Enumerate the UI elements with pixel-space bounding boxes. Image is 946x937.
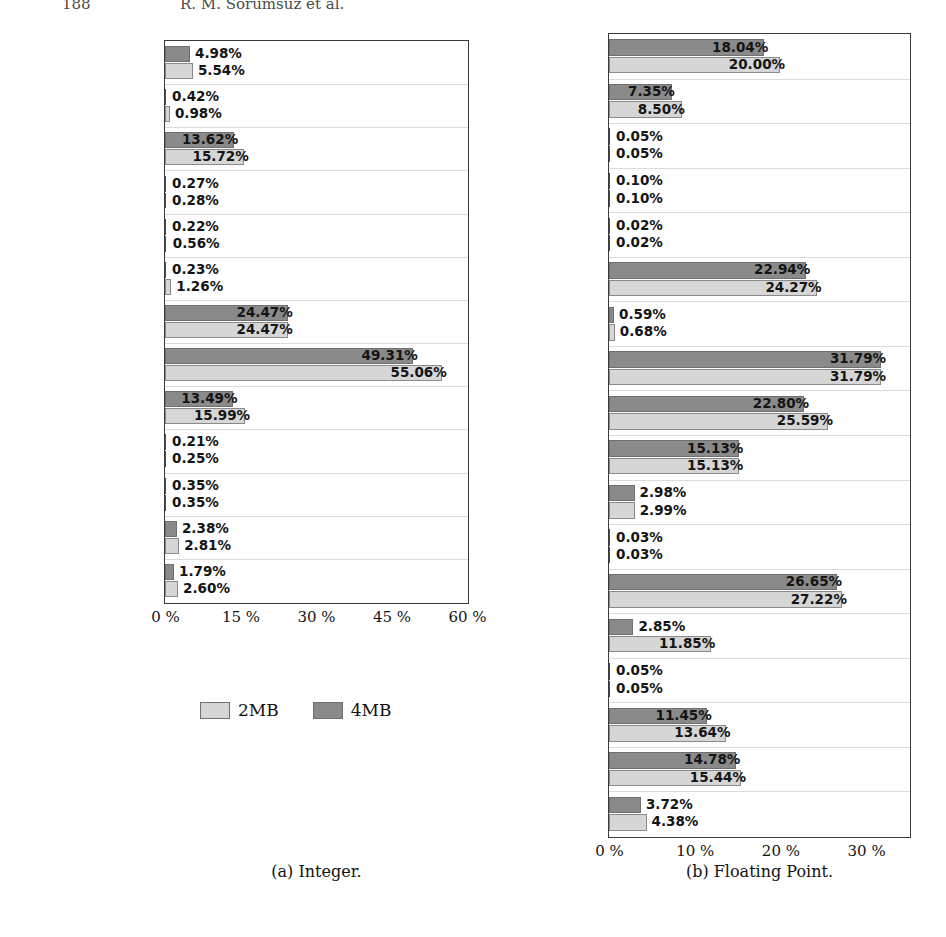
gridline (609, 791, 910, 792)
caption-integer: (a) Integer. (164, 862, 469, 881)
gridline (609, 524, 910, 525)
bar (609, 797, 641, 813)
gridline (165, 386, 468, 387)
x-tick-label: 0 % (580, 844, 640, 859)
bar-value-label: 0.05% (616, 682, 663, 696)
bar-value-label: 0.03% (616, 531, 663, 545)
bar (609, 218, 611, 234)
gridline (609, 480, 910, 481)
gridline (165, 257, 468, 258)
bar-value-label: 2.98% (640, 486, 687, 500)
legend-swatch-2mb (200, 702, 230, 719)
bar-value-label: 26.65% (786, 575, 842, 589)
bar-value-label: 0.28% (172, 194, 219, 208)
bar (165, 219, 167, 235)
bar (165, 581, 178, 597)
bar-value-label: 13.64% (674, 726, 730, 740)
x-tick-label: 15 % (211, 610, 271, 625)
gridline (609, 702, 910, 703)
x-tick-label: 0 % (136, 610, 196, 625)
bar-value-label: 4.38% (652, 815, 699, 829)
bar (165, 451, 167, 467)
bar-value-label: 15.72% (193, 150, 249, 164)
bar (165, 262, 167, 278)
bar-value-label: 0.10% (616, 192, 663, 206)
gridline (609, 747, 910, 748)
bar (165, 89, 167, 105)
bar (165, 564, 174, 580)
bar (609, 146, 611, 162)
legend-swatch-4mb (313, 702, 343, 719)
gridline (165, 84, 468, 85)
gridline (165, 170, 468, 171)
gridline (609, 212, 910, 213)
running-title: R. M. Sorumsuz et al. (180, 0, 344, 13)
bar-value-label: 22.80% (753, 397, 809, 411)
legend-label-4mb: 4MB (351, 700, 392, 720)
bar-value-label: 2.99% (640, 504, 687, 518)
bar-value-label: 3.72% (646, 798, 693, 812)
bar (609, 324, 615, 340)
gridline (609, 123, 910, 124)
bar-value-label: 11.45% (656, 709, 712, 723)
caption-floating-point: (b) Floating Point. (608, 862, 911, 881)
bar (609, 529, 611, 545)
bar (165, 538, 179, 554)
bar (609, 307, 614, 323)
gridline (609, 301, 910, 302)
bar-value-label: 0.05% (616, 147, 663, 161)
bar-value-label: 14.78% (684, 753, 740, 767)
bar-value-label: 2.85% (638, 620, 685, 634)
x-tick-label: 10 % (665, 844, 725, 859)
bar-value-label: 0.05% (616, 130, 663, 144)
page-number: 188 (62, 0, 91, 13)
bar-value-label: 1.26% (176, 280, 223, 294)
bar-value-label: 0.10% (616, 174, 663, 188)
bar (165, 236, 167, 252)
bar (165, 495, 167, 511)
bar-value-label: 15.99% (194, 409, 250, 423)
bar (165, 46, 190, 62)
gridline (609, 257, 910, 258)
legend: 2MB 4MB (200, 700, 425, 720)
bar-value-label: 13.62% (182, 133, 238, 147)
bar-value-label: 18.04% (712, 41, 768, 55)
bar (609, 235, 611, 251)
bar-value-label: 5.54% (198, 64, 245, 78)
bar (609, 485, 635, 501)
x-tick-label: 45 % (362, 610, 422, 625)
bar-value-label: 7.35% (628, 85, 675, 99)
bar-value-label: 0.03% (616, 548, 663, 562)
plot-area-floating-point: 18.04%20.00%7.35%8.50%0.05%0.05%0.10%0.1… (608, 33, 911, 838)
bar (165, 521, 177, 537)
bar (165, 478, 167, 494)
gridline (609, 435, 910, 436)
bar-value-label: 31.79% (830, 352, 886, 366)
gridline (165, 300, 468, 301)
bar-value-label: 13.49% (181, 392, 237, 406)
gridline (609, 390, 910, 391)
bar-value-label: 15.13% (687, 442, 743, 456)
bar (165, 193, 167, 209)
bar (609, 547, 611, 563)
bar-value-label: 0.02% (616, 219, 663, 233)
bar (165, 279, 171, 295)
gridline (165, 343, 468, 344)
gridline (165, 473, 468, 474)
x-tick-label: 30 % (287, 610, 347, 625)
bar-value-label: 0.22% (172, 220, 219, 234)
legend-label-2mb: 2MB (238, 700, 279, 720)
bar-value-label: 0.56% (173, 237, 220, 251)
bar-value-label: 0.59% (619, 308, 666, 322)
gridline (165, 127, 468, 128)
gridline (609, 79, 910, 80)
bar-value-label: 0.68% (620, 325, 667, 339)
x-tick-label: 30 % (837, 844, 897, 859)
gridline (609, 613, 910, 614)
bar (609, 814, 647, 830)
bar-value-label: 0.35% (172, 479, 219, 493)
gridline (165, 516, 468, 517)
bar-value-label: 20.00% (729, 58, 785, 72)
gridline (165, 214, 468, 215)
bar (165, 106, 170, 122)
